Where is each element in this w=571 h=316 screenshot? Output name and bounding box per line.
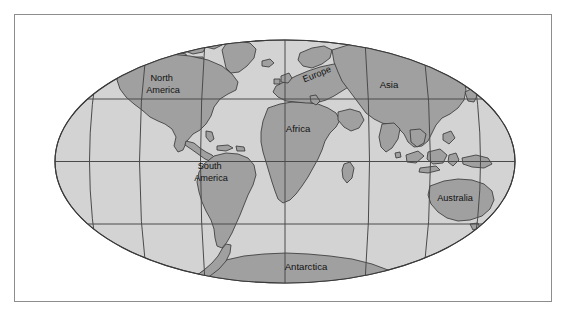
world-map-svg: North America South America Europe Afric… <box>0 0 571 316</box>
new-zealand-south-shape <box>497 219 509 230</box>
kamchatka-shape <box>468 56 480 70</box>
label-asia: Asia <box>380 79 399 90</box>
ireland-shape <box>274 79 280 84</box>
sri-lanka-shape <box>395 152 401 158</box>
caribbean-island-b <box>236 146 245 151</box>
map-canvas: North America South America Europe Afric… <box>0 0 571 316</box>
world-map-figure: North America South America Europe Afric… <box>0 0 571 316</box>
label-north-america-line2: America <box>146 85 181 95</box>
label-antarctica: Antarctica <box>285 261 328 272</box>
label-south-america-line2: America <box>194 173 229 183</box>
label-north-america-line1: North <box>150 73 172 83</box>
label-australia: Australia <box>437 193 474 203</box>
label-south-america-line1: South <box>198 161 222 171</box>
label-africa: Africa <box>286 123 311 134</box>
new-zealand-north-shape <box>504 209 515 219</box>
label-south-america: South America <box>194 161 229 183</box>
